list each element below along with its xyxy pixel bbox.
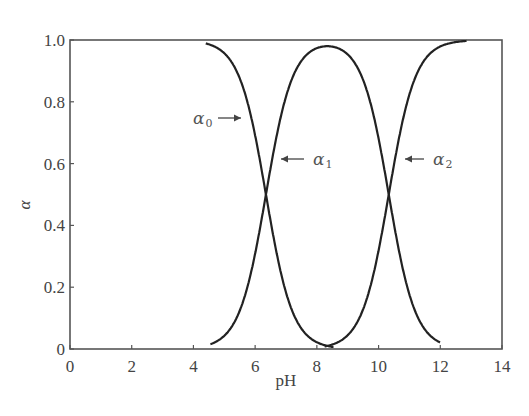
axes-box — [70, 40, 502, 349]
x-tick-label: 12 — [432, 357, 449, 376]
x-tick-label: 8 — [313, 357, 322, 376]
arrowhead-icon — [405, 156, 412, 163]
curve-α2 — [325, 41, 467, 347]
y-axis-label: α — [15, 199, 34, 209]
annotation-α1: α1 — [281, 149, 332, 171]
y-tick-label: 0.4 — [44, 216, 66, 235]
chart: 00.20.40.60.81.0 02468101214 pH α α0α1α2 — [0, 0, 529, 416]
y-tick-label: 1.0 — [44, 31, 65, 50]
y-tick-label: 0.8 — [44, 93, 65, 112]
arrowhead-icon — [234, 115, 241, 122]
y-tick-label: 0.6 — [44, 155, 65, 174]
curves — [206, 41, 467, 347]
curve-label: α2 — [433, 149, 452, 171]
curve-α0 — [206, 43, 334, 347]
x-tick-label: 4 — [189, 357, 198, 376]
curve-label: α0 — [193, 108, 212, 130]
plot-frame — [70, 40, 502, 349]
curve-label: α1 — [313, 149, 332, 171]
x-tick-label: 0 — [66, 357, 75, 376]
y-tick-label: 0.2 — [44, 278, 65, 297]
x-tick-label: 2 — [127, 357, 136, 376]
curve-annotations: α0α1α2 — [193, 108, 452, 171]
x-tick-label: 6 — [251, 357, 260, 376]
annotation-α2: α2 — [405, 149, 452, 171]
x-tick-label: 14 — [494, 357, 512, 376]
x-tick-label: 10 — [370, 357, 387, 376]
annotation-α0: α0 — [193, 108, 241, 130]
y-tick-label: 0 — [57, 340, 66, 359]
arrowhead-icon — [281, 156, 288, 163]
x-axis-label: pH — [276, 371, 297, 390]
